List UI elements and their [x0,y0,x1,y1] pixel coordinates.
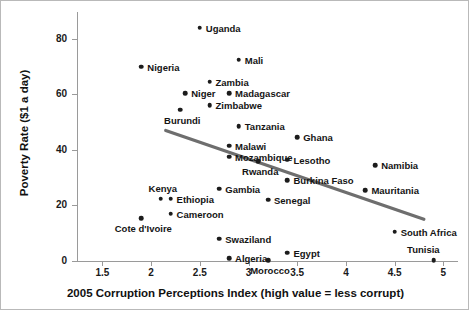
data-point-label: Mali [245,54,263,65]
data-point-label: Zambia [216,76,249,87]
data-point-label: Uganda [206,22,241,33]
data-point-label: Lesotho [293,154,330,165]
data-point [197,25,202,30]
data-point [227,155,232,160]
data-point-label: Nigeria [147,61,179,72]
data-point [236,124,241,129]
data-point [227,256,232,261]
data-point-label: Tunisia [407,244,440,255]
data-point [227,143,232,148]
y-axis-title: Poverty Rate ($1 a day) [18,18,30,248]
data-point-label: Malawi [235,140,266,151]
x-tick-mark [395,261,396,266]
data-point [295,135,300,140]
data-point [373,163,378,168]
x-tick-mark [200,261,201,266]
data-point-label: Rwanda [242,166,278,177]
x-tick-label: 4 [343,267,349,278]
x-tick-label: 1.5 [95,267,109,278]
data-point-label: Swaziland [225,233,271,244]
data-point [236,57,241,62]
data-point-label: Ghana [303,132,333,143]
data-point-label: Mozambique [235,151,293,162]
x-axis-title: 2005 Corruption Perceptions Index (high … [1,287,469,299]
data-point-label: South Africa [401,226,457,237]
y-tick-label: 80 [56,33,67,44]
data-point-label: Niger [191,87,215,98]
data-point [227,91,232,96]
y-tick-label: 0 [61,255,67,266]
x-tick-mark [151,261,152,266]
data-point-label: Zimbabwe [216,100,262,111]
data-point-label: Egypt [293,247,319,258]
data-point [392,230,397,235]
data-point [139,216,144,221]
data-point [168,196,173,201]
y-tick-label: 40 [56,144,67,155]
x-tick-mark [102,261,103,266]
data-point-label: Cote d'Ivoire [115,222,172,233]
data-point [266,198,271,203]
data-point-label: Cameroon [177,208,224,219]
x-tick-mark [297,261,298,266]
data-point [168,211,173,216]
data-point [217,236,222,241]
data-point-label: Morocco [250,265,290,276]
x-tick-label: 2.5 [193,267,207,278]
scatter-chart-figure: 020406080 1.522.533.544.55 Poverty Rate … [0,0,469,310]
data-point [285,157,290,162]
data-point-label: Ethiopia [177,193,214,204]
x-tick-label: 4.5 [388,267,402,278]
data-point [207,103,212,108]
data-point [217,186,222,191]
data-point-label: Tanzania [245,121,285,132]
x-tick-mark [346,261,347,266]
x-tick-label: 2 [148,267,154,278]
data-point [285,178,290,183]
data-point-label: Algeria [235,253,267,264]
x-tick-label: 5 [441,267,447,278]
data-point-label: Namibia [381,160,418,171]
data-point-label: Madagascar [235,87,290,98]
data-point [285,250,290,255]
y-tick-label: 60 [56,88,67,99]
data-point-label: Burkina Faso [293,175,353,186]
data-point [178,107,183,112]
data-point [139,64,144,69]
data-point [159,196,164,201]
data-point [431,258,436,263]
data-point-label: Senegal [274,194,310,205]
y-tick-label: 20 [56,199,67,210]
data-point [363,188,368,193]
data-point-label: Burundi [164,114,200,125]
data-point [266,258,271,263]
data-point [183,91,188,96]
y-tick-mark [72,261,78,262]
data-point [256,159,261,164]
data-point [207,80,212,85]
data-point-label: Gambia [225,183,260,194]
data-point-label: Mauritania [371,185,419,196]
data-point-label: Kenya [149,182,178,193]
x-tick-label: 3.5 [290,267,304,278]
x-tick-mark [443,261,444,266]
